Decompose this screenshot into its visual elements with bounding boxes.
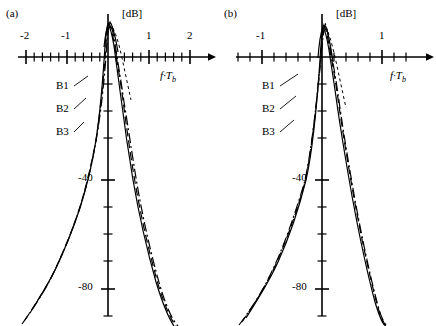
figure-container: (a) [dB] -2 -1 1 2 f·Tb -40 -80 B1 B2 B3 xyxy=(0,0,436,326)
panel-b-leaderlines xyxy=(218,0,436,326)
panel-b: (b) [dB] -1 1 f·Tb -40 -80 B1 B2 B3 xyxy=(218,0,436,326)
panel-a: (a) [dB] -2 -1 1 2 f·Tb -40 -80 B1 B2 B3 xyxy=(0,0,218,326)
panel-a-leaderlines xyxy=(0,0,218,326)
